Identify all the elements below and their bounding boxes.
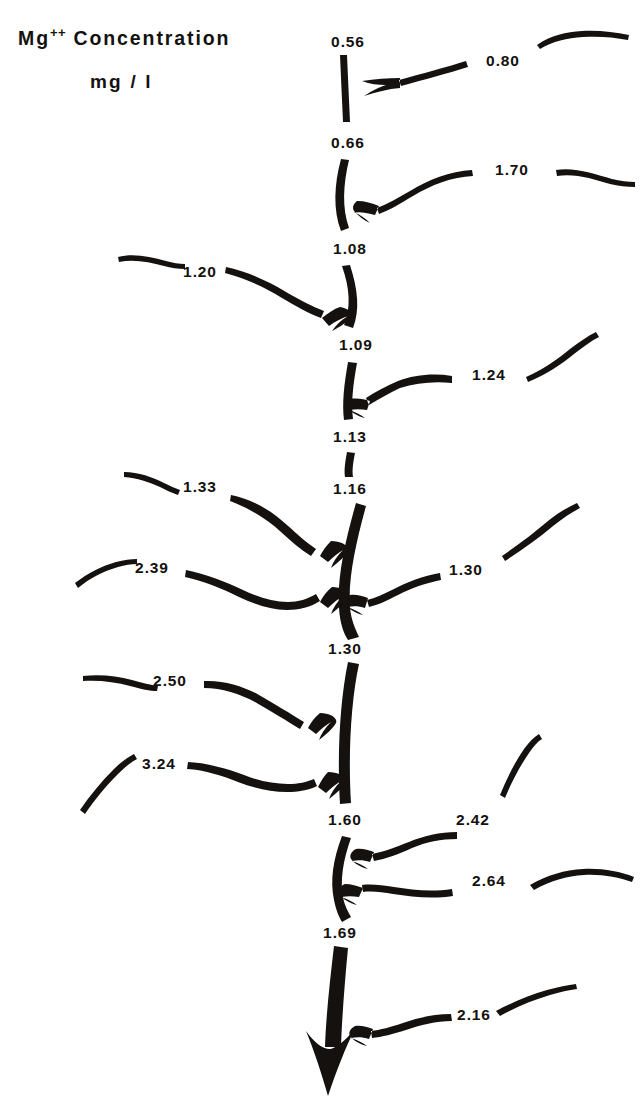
tributary-2.42-upstream	[500, 734, 542, 798]
tributary-label-1.30-right: 1.30	[449, 562, 483, 578]
tributary-label-1.70: 1.70	[495, 162, 529, 178]
tributary-3.24-upstream	[80, 754, 137, 814]
tributary-label-1.33: 1.33	[183, 479, 217, 495]
mainstem-segment-6	[339, 503, 366, 640]
mainstem-label-1.30: 1.30	[328, 641, 362, 657]
tributary-0.80-inflow-arrow	[362, 61, 468, 96]
tributary-label-0.80: 0.80	[486, 53, 520, 69]
tributary-1.70-inflow-arrow	[353, 170, 473, 223]
tributary-label-2.39: 2.39	[135, 560, 169, 576]
tributary-3.24	[80, 754, 346, 814]
tributary-2.42-inflow-arrow	[350, 832, 457, 869]
tributary-3.24-inflow-arrow	[187, 762, 346, 799]
tributary-1.70-upstream	[556, 169, 635, 187]
mainstem-label-1.09: 1.09	[339, 337, 373, 353]
mainstem-label-0.66: 0.66	[331, 135, 365, 151]
tributary-2.42	[350, 734, 542, 869]
tributary-label-1.20: 1.20	[183, 264, 217, 280]
tributary-1.30-right-upstream	[502, 503, 580, 561]
tributary-2.50	[83, 675, 336, 740]
tributary-2.39-inflow-arrow	[185, 570, 348, 614]
tributary-1.33	[124, 472, 348, 568]
mainstem-segment-5	[345, 452, 355, 477]
stream-network-diagram: Mg++ Concentration mg / l	[0, 0, 640, 1112]
mainstem-label-1.13: 1.13	[333, 429, 367, 445]
tributary-1.24-inflow-arrow	[347, 375, 452, 418]
tributary-2.50-inflow-arrow	[204, 681, 336, 740]
tributary-0.80-upstream	[537, 31, 629, 49]
mainstem-segment-2	[335, 159, 349, 231]
tributary-2.16-upstream	[496, 984, 577, 1016]
mainstem-segment-4	[343, 362, 357, 420]
ink-strokes-layer	[0, 0, 640, 1112]
tributary-1.70	[353, 169, 635, 223]
tributary-2.50-upstream	[83, 675, 158, 691]
tributary-label-2.50: 2.50	[153, 673, 187, 689]
tributary-1.20-inflow-arrow	[225, 267, 351, 331]
tributary-1.20-upstream	[118, 255, 185, 269]
tributary-2.39-upstream	[75, 559, 137, 588]
mainstem-label-1.08: 1.08	[333, 241, 367, 257]
mainstem-segment-1	[340, 55, 350, 122]
tributary-2.64-upstream	[530, 869, 634, 890]
tributary-1.33-inflow-arrow	[230, 495, 348, 568]
tributary-1.30-right	[345, 503, 580, 615]
mainstem-segment-8	[332, 836, 351, 922]
tributary-label-1.24: 1.24	[472, 367, 506, 383]
tributary-2.16-inflow-arrow	[349, 1014, 452, 1046]
mainstem-label-0.56: 0.56	[331, 34, 365, 50]
tributary-label-2.16: 2.16	[457, 1007, 491, 1023]
mainstem-label-1.60: 1.60	[328, 812, 362, 828]
tributary-label-3.24: 3.24	[142, 756, 176, 772]
tributary-2.64-inflow-arrow	[339, 884, 453, 905]
tributary-1.24-upstream	[526, 332, 599, 382]
mainstem-label-1.16: 1.16	[333, 481, 367, 497]
tributary-2.39	[75, 559, 348, 614]
mainstem-label-1.69: 1.69	[323, 925, 357, 941]
tributary-label-2.42: 2.42	[456, 812, 490, 828]
tributary-1.33-upstream	[124, 472, 180, 495]
outlet-arrow-shaft	[325, 946, 348, 1047]
tributary-label-2.64: 2.64	[472, 873, 506, 889]
tributary-1.20	[118, 255, 351, 331]
tributary-1.30-right-inflow-arrow	[345, 573, 441, 615]
